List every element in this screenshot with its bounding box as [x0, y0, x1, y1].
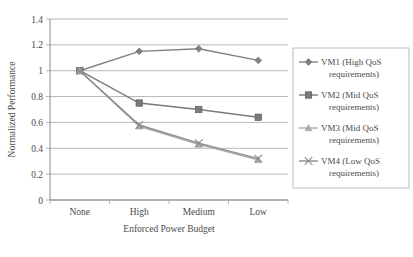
- y-tick-label-1.4: 1.4: [31, 15, 43, 25]
- x-tick-marks: [50, 200, 288, 204]
- legend-label-4-line2: requirements): [329, 168, 379, 178]
- data-point-2-1: [136, 100, 142, 106]
- y-tick-label-0.4: 0.4: [31, 144, 43, 154]
- legend-label-2-line2: requirements): [329, 102, 379, 112]
- x-tick-label-none: None: [69, 207, 90, 217]
- y-tick-label-1.2: 1.2: [31, 40, 43, 50]
- y-tick-label-0.2: 0.2: [31, 170, 43, 180]
- legend-label-4-line1: VM4 (Low QoS: [321, 156, 380, 166]
- chart-figure: 1.4 1.2 1 0.8 0.6 0.4 0.2 0 None High Me…: [0, 0, 413, 257]
- x-tick-label-medium: Medium: [183, 207, 216, 217]
- x-tick-labels: None High Medium Low: [69, 207, 267, 217]
- legend-marker-2: [305, 92, 311, 98]
- legend-label-1-line2: requirements): [329, 69, 379, 79]
- data-point-2-2: [196, 106, 202, 112]
- legend-label-3-line2: requirements): [329, 135, 379, 145]
- legend-label-2-line1: VM2 (Mid QoS: [321, 90, 379, 100]
- y-tick-label-0.8: 0.8: [31, 92, 43, 102]
- x-tick-label-high: High: [130, 207, 149, 217]
- chart-svg: 1.4 1.2 1 0.8 0.6 0.4 0.2 0 None High Me…: [0, 0, 413, 257]
- legend-label-3-line1: VM3 (Mid QoS: [321, 123, 379, 133]
- y-tick-label-1: 1: [38, 66, 43, 76]
- x-axis-title: Enforced Power Budget: [123, 224, 215, 234]
- y-tick-labels: 1.4 1.2 1 0.8 0.6 0.4 0.2 0: [31, 15, 43, 206]
- legend-label-1-line1: VM1 (High QoS: [321, 57, 382, 67]
- y-tick-marks: [46, 19, 50, 200]
- y-tick-label-0: 0: [38, 196, 43, 206]
- x-tick-label-low: Low: [250, 207, 268, 217]
- y-tick-label-0.6: 0.6: [31, 118, 43, 128]
- y-axis-title: Normalized Performance: [7, 62, 17, 158]
- plot-area-background: [50, 19, 288, 200]
- data-point-2-3: [255, 114, 261, 120]
